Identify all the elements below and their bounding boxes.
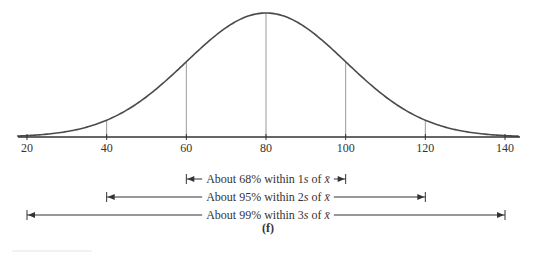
tick-label-80: 80 <box>260 141 272 155</box>
empirical-rule-arrows: About 68% within 1s of x̄About 95% withi… <box>27 172 505 222</box>
arrow-annotation-1: About 68% within 1s of x̄ <box>186 172 345 186</box>
arrow-label: About 95% within 2s of x̄ <box>206 190 330 204</box>
normal-distribution-chart: 20406080100120140 About 68% within 1s of… <box>0 0 536 253</box>
arrow-annotation-2: About 95% within 2s of x̄ <box>107 190 426 204</box>
arrow-annotation-3: About 99% within 3s of x̄ <box>27 208 505 222</box>
tick-label-60: 60 <box>180 141 192 155</box>
std-dev-guide-lines <box>107 13 426 137</box>
arrow-label: About 99% within 3s of x̄ <box>206 208 330 222</box>
arrow-label: About 68% within 1s of x̄ <box>206 172 330 186</box>
figure-label: (f) <box>262 221 274 235</box>
tick-label-40: 40 <box>101 141 113 155</box>
tick-label-120: 120 <box>416 141 434 155</box>
tick-label-140: 140 <box>496 141 514 155</box>
bell-curve <box>17 13 519 136</box>
tick-label-20: 20 <box>21 141 33 155</box>
x-axis-tick-labels: 20406080100120140 <box>21 141 514 155</box>
tick-label-100: 100 <box>337 141 355 155</box>
